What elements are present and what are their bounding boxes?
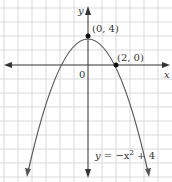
y-axis-label: y: [77, 5, 84, 16]
intercept-point: [114, 63, 119, 68]
graph-canvas: y x 0 (0, 4) (2, 0) y = −x2 + 4: [0, 0, 172, 182]
x-axis-left-arrow-icon: [4, 62, 12, 68]
curve-left-arrow-icon: [25, 168, 31, 177]
curve-right-arrow-icon: [145, 168, 151, 177]
y-axis-up-arrow-icon: [85, 6, 91, 15]
intercept-label: (2, 0): [117, 52, 144, 63]
vertex-point: [86, 34, 91, 39]
equation-label: y = −x2 + 4: [94, 149, 155, 161]
origin-label: 0: [79, 69, 85, 80]
x-axis-right-arrow-icon: [162, 62, 170, 68]
x-axis-label: x: [164, 69, 170, 80]
parabola-graph: y x 0 (0, 4) (2, 0) y = −x2 + 4: [0, 0, 172, 182]
vertex-label: (0, 4): [92, 23, 119, 34]
